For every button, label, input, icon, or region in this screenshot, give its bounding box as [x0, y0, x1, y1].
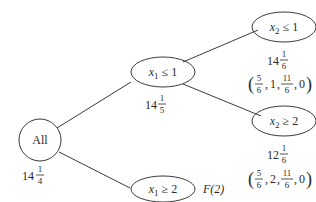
svg-text:,: , [294, 172, 297, 186]
svg-text:1: 1 [282, 49, 287, 59]
svg-text:5: 5 [257, 168, 262, 178]
edge-x1le1-x2le1 [183, 30, 258, 62]
x2le1-solution: ( 5 6 , 1 , 11 6 , 0 ) [248, 73, 312, 95]
node-x1le1-label: x1 ≤ 1 [148, 65, 177, 81]
svg-text:): ) [306, 169, 312, 190]
svg-text:x1 ≥ 2: x1 ≥ 2 [148, 182, 177, 198]
svg-text:6: 6 [285, 85, 290, 95]
svg-text:6: 6 [257, 180, 262, 190]
svg-text:11: 11 [283, 168, 292, 178]
svg-text:6: 6 [282, 155, 287, 165]
svg-text:5: 5 [160, 105, 165, 115]
svg-text:x1 ≤ 1: x1 ≤ 1 [148, 65, 177, 81]
svg-text:12: 12 [267, 148, 279, 162]
svg-text:14: 14 [22, 169, 34, 183]
svg-text:,: , [277, 77, 280, 91]
svg-text:,: , [294, 77, 297, 91]
svg-text:6: 6 [282, 61, 287, 71]
svg-text:x2 ≥ 2: x2 ≥ 2 [269, 114, 298, 130]
svg-text:6: 6 [285, 180, 290, 190]
svg-text:): ) [306, 74, 312, 95]
svg-text:6: 6 [257, 85, 262, 95]
svg-text:1: 1 [282, 143, 287, 153]
edge-root-x1le1 [57, 82, 131, 128]
svg-text:14: 14 [145, 98, 157, 112]
svg-text:1: 1 [160, 93, 165, 103]
svg-text:x2 ≤ 1: x2 ≤ 1 [269, 20, 298, 36]
node-x1ge2-label: x1 ≥ 2 [148, 182, 177, 198]
x1ge2-note: F(2) [202, 182, 224, 196]
svg-text:,: , [265, 172, 268, 186]
svg-text:(: ( [248, 74, 254, 95]
svg-text:1: 1 [38, 164, 43, 174]
svg-text:5: 5 [257, 73, 262, 83]
svg-text:1: 1 [270, 77, 276, 91]
svg-text:4: 4 [38, 176, 43, 186]
svg-text:11: 11 [283, 73, 292, 83]
x1le1-bound: 14 1 5 [145, 93, 166, 115]
svg-text:(: ( [248, 169, 254, 190]
root-bound: 14 1 4 [22, 164, 44, 186]
svg-text:0: 0 [299, 172, 305, 186]
svg-text:14: 14 [267, 54, 279, 68]
svg-text:0: 0 [299, 77, 305, 91]
node-x2le1-label: x2 ≤ 1 [269, 20, 298, 36]
node-x2ge2-label: x2 ≥ 2 [269, 114, 298, 130]
svg-text:,: , [277, 172, 280, 186]
x2ge2-solution: ( 5 6 , 2 , 11 6 , 0 ) [248, 168, 312, 190]
svg-text:2: 2 [270, 172, 276, 186]
x2le1-bound: 14 1 6 [267, 49, 288, 71]
tree-diagram: All 14 1 4 x1 ≤ 1 14 1 5 x1 ≥ 2 F(2) x2 … [0, 0, 316, 202]
x2ge2-bound: 12 1 6 [267, 143, 288, 165]
svg-text:,: , [265, 77, 268, 91]
edge-root-x1ge2 [59, 152, 130, 188]
node-root-label: All [32, 133, 48, 147]
